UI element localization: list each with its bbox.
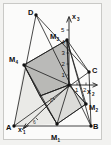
- axis-label-x3: x: [72, 13, 76, 20]
- label-D: D: [28, 8, 34, 17]
- geometry-diagram: A B C D M 1 M 2 M 3 M 4 x 3 x 2 x 1 5 4 …: [0, 0, 111, 145]
- vertex-dot-M1: [55, 122, 58, 125]
- vertex-dot-D: [34, 13, 37, 16]
- vertex-dot-A: [12, 124, 15, 127]
- tick-label-x1-2: 2: [50, 97, 53, 103]
- label-C: C: [92, 66, 98, 75]
- vertex-dot-C: [87, 70, 90, 73]
- axis-label-x3-subscript: 3: [77, 17, 80, 22]
- label-M4: M: [9, 55, 15, 64]
- tick-label-x2-1: 1: [75, 87, 79, 93]
- edge-B-C: [89, 72, 91, 126]
- tick-label-x3-5: 5: [61, 27, 65, 33]
- label-A: A: [6, 123, 12, 132]
- figure-container: A B C D M 1 M 2 M 3 M 4 x 3 x 2 x 1 5 4 …: [0, 0, 111, 145]
- label-M3-subscript: 3: [57, 37, 60, 42]
- axis-label-x1-subscript: 1: [23, 130, 26, 135]
- axis-label-x2: x: [87, 88, 91, 95]
- vertex-dot-origin: [68, 84, 71, 87]
- label-B: B: [93, 122, 99, 131]
- label-M4-subscript: 4: [16, 60, 19, 65]
- label-M1: M: [51, 133, 57, 142]
- edge-M3-C: [67, 40, 89, 72]
- label-M2-subscript: 2: [96, 108, 99, 113]
- vertex-dot-M3: [65, 38, 68, 41]
- axis-label-x2-subscript: 2: [92, 92, 95, 97]
- tick-label-x1-6: 6: [33, 119, 36, 125]
- vertex-dot-M2: [84, 102, 87, 105]
- label-M3: M: [50, 32, 56, 41]
- axis-label-x1: x: [18, 126, 22, 133]
- vertex-dot-M4: [22, 63, 25, 66]
- label-M1-subscript: 1: [58, 138, 61, 143]
- label-M2: M: [89, 103, 95, 112]
